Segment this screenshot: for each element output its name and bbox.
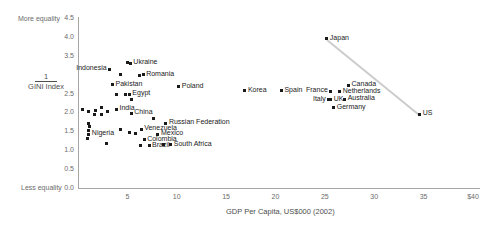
data-point-label: Australia xyxy=(348,94,375,101)
y-tick-label: 4.5 xyxy=(52,14,74,21)
x-tick-label: 25 xyxy=(311,193,339,200)
data-point xyxy=(332,106,335,109)
x-axis-line xyxy=(78,188,480,189)
data-point-unlabeled xyxy=(152,117,155,120)
data-point xyxy=(169,143,172,146)
data-point xyxy=(177,85,180,88)
data-point xyxy=(140,128,143,131)
y-tick-label: 3.5 xyxy=(52,52,74,59)
x-axis-title: GDP Per Capita, US$000 (2002) xyxy=(226,207,335,216)
data-point xyxy=(115,108,118,111)
data-point-label: Germany xyxy=(337,103,366,110)
data-point xyxy=(338,90,341,93)
data-point-unlabeled xyxy=(81,108,84,111)
data-point-unlabeled xyxy=(87,122,90,125)
data-point-label: Poland xyxy=(182,82,204,89)
data-point-label: Ukraine xyxy=(133,58,157,65)
data-point-label: Netherlands xyxy=(343,87,381,94)
data-point xyxy=(143,138,146,141)
scatter-chart: 1 GINI Index More equality Less equality… xyxy=(0,0,488,234)
data-point xyxy=(130,112,133,115)
data-point-unlabeled xyxy=(87,129,90,132)
data-point-unlabeled xyxy=(88,125,91,128)
data-point-unlabeled xyxy=(93,113,96,116)
data-point xyxy=(280,89,283,92)
y-tick-label: 4.0 xyxy=(52,33,74,40)
data-point-label: Indonesia xyxy=(76,64,106,71)
data-point-unlabeled xyxy=(128,131,131,134)
x-tick-label: 5 xyxy=(113,193,141,200)
data-point xyxy=(325,37,328,40)
data-point-unlabeled xyxy=(130,98,133,101)
y-tick-label: 2.0 xyxy=(52,108,74,115)
data-point-label: Romania xyxy=(146,70,174,77)
data-point-label: Japan xyxy=(330,34,349,41)
data-point-label: Spain xyxy=(284,86,302,93)
y-axis-line xyxy=(78,17,79,189)
data-point-unlabeled xyxy=(134,132,137,135)
data-point-unlabeled xyxy=(100,113,103,116)
y-tick-label: 0.5 xyxy=(52,165,74,172)
data-point xyxy=(329,90,332,93)
data-point xyxy=(111,83,114,86)
x-tick-label: 20 xyxy=(262,193,290,200)
data-point xyxy=(129,62,132,65)
data-point-unlabeled xyxy=(115,93,118,96)
y-axis-title-numerator: 1 xyxy=(24,72,68,81)
x-tick-label: 30 xyxy=(360,193,388,200)
data-point xyxy=(243,89,246,92)
data-point xyxy=(148,144,151,147)
data-point-label: Egypt xyxy=(132,89,150,96)
data-point-unlabeled xyxy=(119,73,122,76)
data-point-label: US xyxy=(423,109,433,116)
data-point-label: South Africa xyxy=(174,140,212,147)
data-point-unlabeled xyxy=(139,144,142,147)
y-axis-title: 1 GINI Index xyxy=(24,72,68,91)
data-point-unlabeled xyxy=(138,74,141,77)
data-point-label: Nigeria xyxy=(92,129,114,136)
x-tick-label: 35 xyxy=(410,193,438,200)
y-tick-label: 2.5 xyxy=(52,90,74,97)
data-point-label: Pakistan xyxy=(116,80,143,87)
y-tick-label: 0.0 xyxy=(52,184,74,191)
data-point-label: France xyxy=(306,86,328,93)
x-tick-label: 15 xyxy=(212,193,240,200)
data-point xyxy=(418,113,421,116)
data-point-unlabeled xyxy=(87,110,90,113)
data-point-unlabeled xyxy=(100,106,103,109)
data-point-unlabeled xyxy=(86,137,89,140)
data-point-unlabeled xyxy=(105,142,108,145)
data-point-unlabeled xyxy=(94,109,97,112)
data-point-label: China xyxy=(134,108,152,115)
data-point xyxy=(108,68,111,71)
y-tick-label: 1.5 xyxy=(52,127,74,134)
data-point-label: UK xyxy=(334,95,344,102)
data-point xyxy=(87,133,90,136)
data-point-unlabeled xyxy=(106,110,109,113)
x-tick-label: 10 xyxy=(163,193,191,200)
data-point-label: India xyxy=(120,104,135,111)
data-point xyxy=(164,122,167,125)
data-point xyxy=(327,98,330,101)
data-point-unlabeled xyxy=(119,128,122,131)
data-point xyxy=(142,73,145,76)
data-point xyxy=(128,93,131,96)
x-tick-label: $40 xyxy=(459,193,487,200)
data-point-label: Italy xyxy=(313,95,326,102)
data-point-label: Russian Federation xyxy=(169,118,230,125)
data-point-label: Korea xyxy=(248,86,267,93)
data-point-label: Brazil xyxy=(152,141,170,148)
y-axis-title-denominator-1: GINI xyxy=(28,82,43,91)
y-tick-label: 1.0 xyxy=(52,146,74,153)
